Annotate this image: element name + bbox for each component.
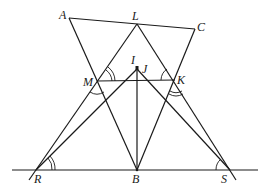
label-B: B <box>132 172 140 186</box>
segment-CB <box>137 29 195 170</box>
segment-LS <box>137 24 236 180</box>
label-M: M <box>82 75 94 89</box>
label-I: I <box>130 53 136 67</box>
label-L: L <box>131 9 139 23</box>
angle-mark-S <box>216 159 221 170</box>
label-J: J <box>142 62 148 76</box>
point-B <box>136 169 139 172</box>
angle-mark-R-1 <box>48 158 52 170</box>
segment-LR <box>29 24 137 180</box>
label-A: A <box>58 8 67 22</box>
label-R: R <box>33 172 42 186</box>
angle-mark-M-upper-1 <box>106 70 112 81</box>
label-S: S <box>221 172 227 186</box>
label-C: C <box>197 20 206 34</box>
point-IJ <box>136 66 139 70</box>
geometry-diagram: A L C M I J K R B S <box>0 0 272 196</box>
segment-MK <box>97 80 175 81</box>
label-K: K <box>176 73 186 87</box>
segment-AB <box>69 18 137 170</box>
